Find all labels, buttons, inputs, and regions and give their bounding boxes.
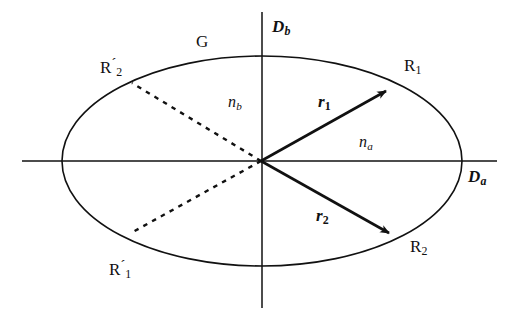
endpoint-label-R1-subscript: 1 [415,63,421,77]
vector-label-r1: r1 [318,93,331,113]
endpoint-label-R1-base: R [404,56,415,75]
endpoint-label-R2-prime-base: R [100,58,111,77]
endpoint-label-R2: R2 [410,238,428,258]
endpoint-label-R2-prime-subscript: 2 [116,65,122,79]
axis-label-Da-base: D [468,167,480,186]
figure-canvas [0,0,517,319]
endpoint-label-R1-prime: R´1 [109,257,131,281]
axis-label-Db: Db [272,18,290,38]
endpoint-label-R1: R1 [404,57,422,77]
optical-index-ellipse-figure: Db Da G nb na r1 r2 R1 R2 R´2 R´1 [0,0,517,319]
axis-label-Da: Da [468,168,486,188]
refractive-index-na-base: n [359,133,367,150]
axis-label-Db-base: D [272,17,284,36]
vector-label-r1-subscript: 1 [325,99,331,113]
vector-label-r1-base: r [318,92,325,111]
refractive-index-label-nb: nb [228,94,242,112]
endpoint-label-R2-subscript: 2 [421,244,427,258]
axis-label-Db-subscript: b [284,24,290,38]
endpoint-label-R2-prime: R´2 [100,55,122,79]
vector-label-r2: r2 [316,207,329,227]
dashed-ray-to-R1-prime [131,161,261,233]
endpoint-label-R1-prime-base: R [109,260,120,279]
vector-label-r2-subscript: 2 [323,213,329,227]
refractive-index-label-na: na [359,134,373,152]
ellipse-label-G: G [196,33,208,50]
refractive-index-nb-base: n [228,93,236,110]
endpoint-label-R2-base: R [410,237,421,256]
endpoint-label-R1-prime-subscript: 1 [125,267,131,281]
vector-label-r2-base: r [316,206,323,225]
refractive-index-na-subscript: a [367,140,373,152]
refractive-index-nb-subscript: b [236,100,242,112]
axis-label-Da-subscript: a [480,174,486,188]
